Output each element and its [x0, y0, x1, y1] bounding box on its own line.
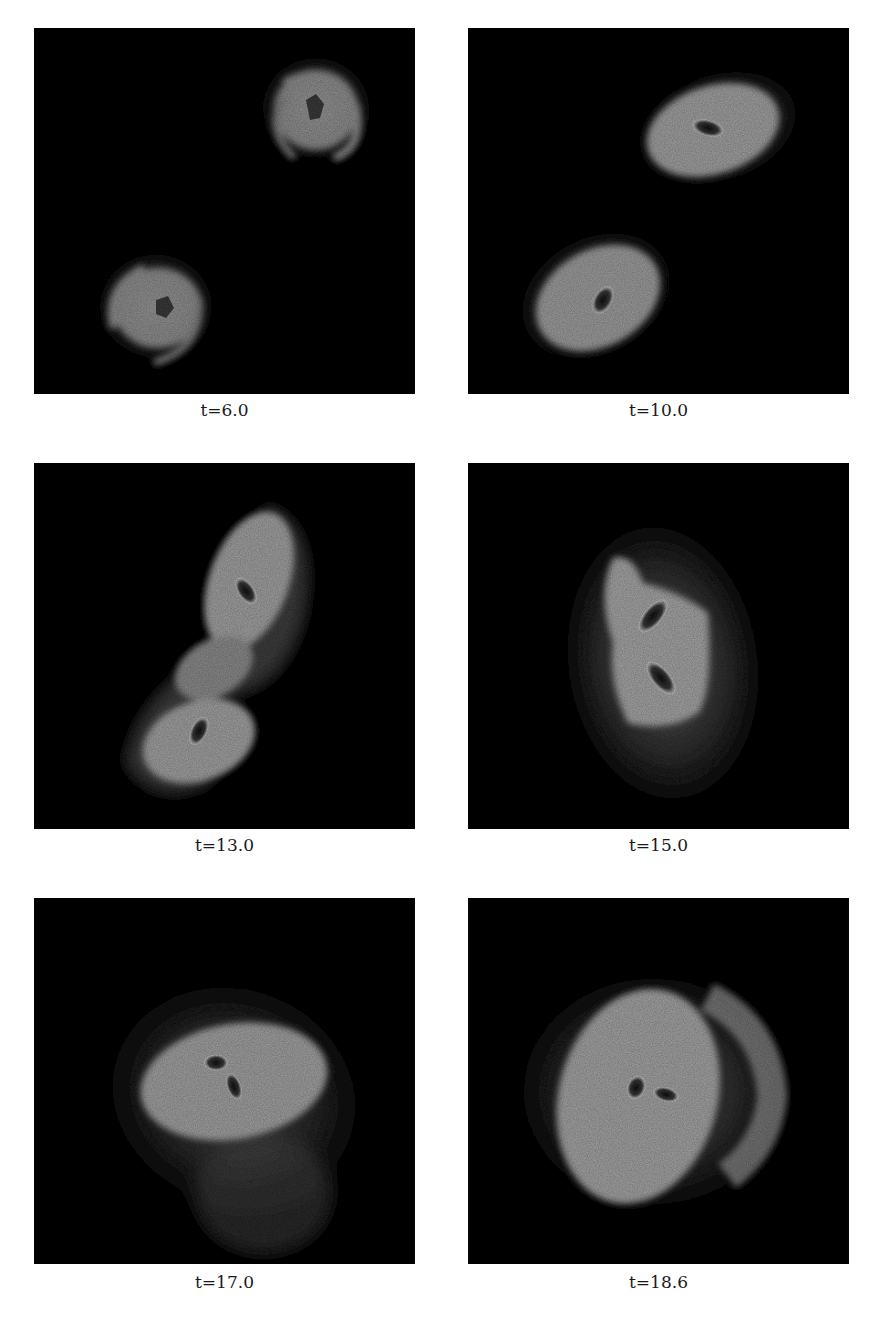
caption-t15: t=15.0: [468, 835, 849, 855]
panel-t13: [34, 463, 415, 829]
panel-t10: [468, 28, 849, 394]
caption-t6: t=6.0: [34, 400, 415, 420]
caption-t17: t=17.0: [34, 1272, 415, 1292]
panel-t17: [34, 898, 415, 1264]
caption-t18-6: t=18.6: [468, 1272, 849, 1292]
galaxy-image: [34, 898, 415, 1264]
panel-t6: [34, 28, 415, 394]
galaxy-image: [34, 463, 415, 829]
galaxy-image: [468, 463, 849, 829]
panel-t18-6: [468, 898, 849, 1264]
caption-t13: t=13.0: [34, 835, 415, 855]
panel-t15: [468, 463, 849, 829]
caption-t10: t=10.0: [468, 400, 849, 420]
galaxy-image: [468, 898, 849, 1264]
galaxy-image: [34, 28, 415, 394]
galaxy-image: [468, 28, 849, 394]
